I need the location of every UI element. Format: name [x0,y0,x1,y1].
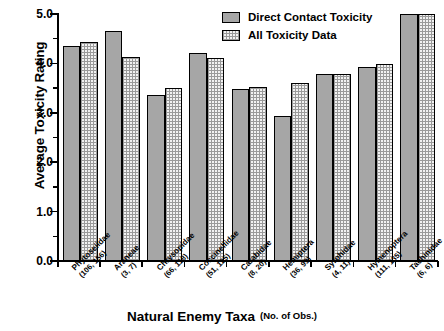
x-axis-title-text: Natural Enemy Taxa [127,309,255,324]
y-tick-label: 2.0 [7,156,53,168]
legend-item-direct-contact-toxicity: Direct Contact Toxicity [222,11,372,23]
y-tick-label: 1.0 [7,206,53,218]
y-tick-label: 5.0 [7,8,53,20]
legend-swatch-solid-icon [222,12,240,23]
bar-chart: Average Toxicity Rating 0.01.02.03.04.05… [0,0,444,331]
x-axis-title-note: (No. of Obs.) [260,310,317,321]
legend-item-all-toxicity-data: All Toxicity Data [222,29,372,41]
legend-swatch-hatch-icon [222,30,240,41]
y-tick-label: 3.0 [7,107,53,119]
y-tick-label: 4.0 [7,57,53,69]
legend-label-direct-contact-toxicity: Direct Contact Toxicity [248,11,372,23]
legend: Direct Contact Toxicity All Toxicity Dat… [222,11,372,47]
y-tick-label: 0.0 [7,255,53,267]
bar-direct-contact [63,46,81,261]
x-tick [57,261,59,267]
x-axis-title: Natural Enemy Taxa(No. of Obs.) [0,309,444,324]
bar-all-toxicity [80,42,98,261]
legend-label-all-toxicity-data: All Toxicity Data [248,29,337,41]
